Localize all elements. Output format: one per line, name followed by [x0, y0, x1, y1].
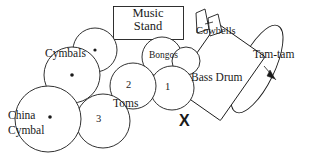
bass-drum-label: Bass Drum — [191, 72, 242, 84]
cowbells-label: Cowbells — [196, 26, 236, 37]
tom-2-label: 2 — [126, 80, 131, 91]
tom-1-label: 1 — [165, 82, 170, 93]
tom-3-label: 3 — [96, 114, 101, 125]
china-cymbal-label-line1: China — [8, 110, 35, 122]
bongos-label: Bongos — [149, 51, 178, 61]
cymbals-label: Cymbals — [45, 48, 86, 60]
tam-tam-label: Tam-tam — [253, 49, 294, 61]
toms-label: Toms — [113, 98, 138, 110]
china-cymbal-center-dot — [48, 115, 52, 119]
player-position-marker: X — [179, 113, 190, 130]
percussion-setup-diagram: Music Stand Cowbells Tam-tam Bongos Bass… — [0, 0, 311, 162]
cymbal-lower-center-dot — [70, 73, 74, 77]
music-stand-label: Music Stand — [118, 7, 178, 33]
music-stand-label-line2: Stand — [118, 20, 178, 33]
china-cymbal-label-line2: Cymbal — [8, 125, 44, 137]
cymbal-upper-center-dot — [93, 48, 96, 51]
tom-1-shape — [150, 66, 194, 110]
